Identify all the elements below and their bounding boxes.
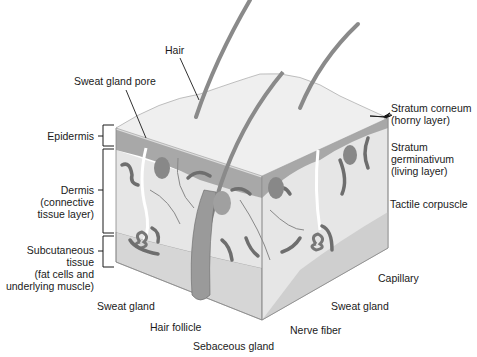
label-sweat-gland-right: Sweat gland [331,300,389,312]
label-nerve-fiber: Nerve fiber [290,324,341,336]
tactile-corpuscle [154,157,170,179]
tactile-corpuscle [343,145,357,165]
label-epidermis: Epidermis [44,130,94,142]
label-capillary: Capillary [378,272,419,284]
label-sebaceous-gland: Sebaceous gland [193,340,274,352]
label-subcutaneous: Subcutaneous tissue (fat cells and under… [2,244,94,292]
label-sweat-gland-pore: Sweat gland pore [74,75,156,87]
label-hair-follicle: Hair follicle [150,321,201,333]
label-stratum-corneum: Stratum corneum (horny layer) [391,102,472,126]
sebaceous-gland [213,191,231,215]
label-sweat-gland-left: Sweat gland [97,300,155,312]
label-tactile-corpuscle: Tactile corpuscle [390,198,468,210]
label-hair: Hair [165,44,184,56]
skin-diagram [0,0,477,357]
label-dermis: Dermis (connective tissue layer) [20,184,94,220]
tactile-corpuscle [268,177,284,199]
layer-brackets [98,125,114,267]
label-stratum-germinativum: Stratum germinativum (living layer) [391,141,454,177]
